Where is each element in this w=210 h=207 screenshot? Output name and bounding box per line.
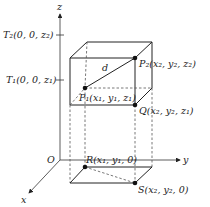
point-p1 [83,86,88,91]
r-label: R(x₁, y₁, 0) [85,154,137,165]
point-q [133,103,138,108]
rs-dashed [85,167,135,183]
s-label: S(x₂, y₂, 0) [138,184,189,195]
origin-label: O [47,154,55,165]
distance-label: d [102,62,108,73]
t2-label: T₂(0, 0, z₂) [3,29,54,40]
point-s [133,181,138,186]
p1-label: P₁(x₁, y₁, z₁) [78,92,136,103]
box-top-face [70,42,152,58]
p2-label: P₂(x₂, y₂, z₂) [138,58,196,69]
point-p2 [133,56,138,61]
box-hidden-edge [85,42,87,88]
y-axis-label: y [182,154,189,165]
z-axis-label: z [56,1,63,12]
box-edge [135,88,152,105]
x-axis-label: x [21,194,27,205]
point-r [83,165,88,170]
x-axis [29,160,60,193]
t1-label: T₁(0, 0, z₁) [6,74,57,85]
q-label: Q(x₂, y₂, z₁) [139,105,194,116]
distance-segment [85,58,135,88]
distance-diagram: z y x O T₂(0, 0, z₂) T₁(0, 0, z₁) d P₂(x… [0,0,210,207]
